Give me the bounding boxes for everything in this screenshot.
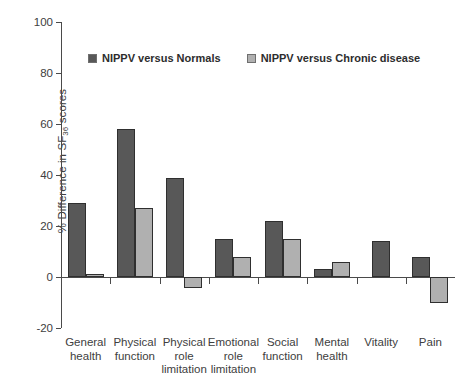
legend-item[interactable]: NIPPV versus Normals [88, 52, 221, 64]
bar [166, 178, 184, 277]
legend-label: NIPPV versus Chronic disease [261, 52, 421, 64]
x-axis-category-label-line: Pain [400, 336, 461, 350]
bar [412, 257, 430, 277]
bar [265, 221, 283, 277]
bar [68, 203, 86, 277]
x-tick-mark [258, 278, 259, 284]
chart-legend: NIPPV versus NormalsNIPPV versus Chronic… [88, 52, 420, 64]
bar [117, 129, 135, 277]
x-tick-mark [357, 278, 358, 284]
bar [233, 257, 251, 277]
x-tick-mark [406, 278, 407, 284]
dark-swatch-icon [88, 54, 97, 63]
bar [215, 239, 233, 277]
x-axis-category-label: Pain [400, 336, 461, 350]
bar [135, 208, 153, 277]
x-tick-mark [307, 278, 308, 284]
bar [86, 274, 104, 277]
bar [372, 241, 390, 277]
x-tick-mark [110, 278, 111, 284]
bar [314, 269, 332, 277]
light-swatch-icon [247, 54, 256, 63]
legend-item[interactable]: NIPPV versus Chronic disease [247, 52, 421, 64]
x-tick-mark [209, 278, 210, 284]
bar [283, 239, 301, 277]
bar [184, 277, 202, 288]
legend-label: NIPPV versus Normals [102, 52, 221, 64]
bar-chart: % Difference in SF36 scores 100806040200… [0, 0, 471, 378]
x-tick-mark [160, 278, 161, 284]
bar [430, 277, 448, 303]
bar [332, 262, 350, 277]
x-axis-category-label-line: health [301, 350, 362, 364]
x-axis-category-label-line: limitation [203, 363, 264, 377]
